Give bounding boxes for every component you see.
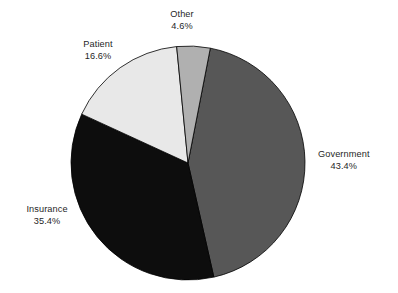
pie-label-insurance-name: Insurance [26,204,67,216]
pie-label-patient: Patient 16.6% [83,39,112,62]
pie-label-other-value: 4.6% [170,21,193,33]
pie-label-patient-name: Patient [83,39,112,51]
pie-label-insurance-value: 35.4% [26,216,67,228]
pie-label-government: Government 43.4% [318,149,370,172]
pie-label-other: Other 4.6% [170,9,193,32]
pie-label-other-name: Other [170,9,193,21]
pie-slice-group [71,46,305,280]
pie-label-patient-value: 16.6% [83,51,112,63]
pie-label-government-name: Government [318,149,370,161]
pie-chart-canvas [0,0,398,293]
pie-label-insurance: Insurance 35.4% [26,204,67,227]
pie-chart-figure: { "chart_data": { "type": "pie", "title"… [0,0,398,293]
pie-label-government-value: 43.4% [318,161,370,173]
